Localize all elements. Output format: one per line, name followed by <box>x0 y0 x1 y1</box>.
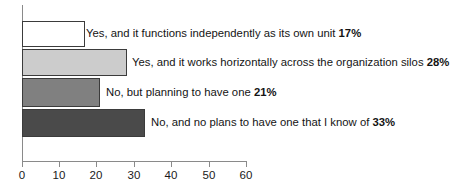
x-tick-0 <box>22 162 23 167</box>
x-tick-20 <box>96 162 97 167</box>
x-tick-label-10: 10 <box>52 169 65 181</box>
bar-label-text-2: No, but planning to have one <box>106 86 254 98</box>
bar-yes-independent-unit <box>22 21 85 47</box>
bar-label-no-planning: No, but planning to have one 21% <box>106 86 277 98</box>
bar-label-text-1: Yes, and it works horizontally across th… <box>132 56 427 68</box>
bar-no-plans <box>22 109 145 137</box>
x-tick-label-40: 40 <box>164 169 177 181</box>
x-tick-label-30: 30 <box>127 169 140 181</box>
bar-yes-horizontal-silos <box>22 49 127 76</box>
bar-value-1: 28% <box>427 56 450 68</box>
bar-label-yes-horizontal-silos: Yes, and it works horizontally across th… <box>132 56 449 68</box>
x-tick-50 <box>209 162 210 167</box>
x-tick-label-0: 0 <box>19 169 26 181</box>
plot-area: 0 10 20 30 40 50 60 Yes, and it function… <box>0 0 456 192</box>
x-tick-label-20: 20 <box>89 169 102 181</box>
bar-label-yes-independent-unit: Yes, and it functions independently as i… <box>86 27 361 39</box>
horizontal-bar-chart: 0 10 20 30 40 50 60 Yes, and it function… <box>0 0 456 192</box>
bar-label-no-plans: No, and no plans to have one that I know… <box>151 116 395 128</box>
x-tick-60 <box>246 162 247 167</box>
bar-value-2: 21% <box>254 86 277 98</box>
bar-label-text-0: Yes, and it functions independently as i… <box>86 27 339 39</box>
x-tick-label-50: 50 <box>202 169 215 181</box>
bar-value-3: 33% <box>373 116 396 128</box>
bar-value-0: 17% <box>339 27 362 39</box>
bar-no-planning <box>22 78 100 107</box>
x-tick-10 <box>59 162 60 167</box>
x-tick-30 <box>134 162 135 167</box>
x-tick-label-60: 60 <box>239 169 252 181</box>
bar-label-text-3: No, and no plans to have one that I know… <box>151 116 373 128</box>
x-tick-40 <box>171 162 172 167</box>
